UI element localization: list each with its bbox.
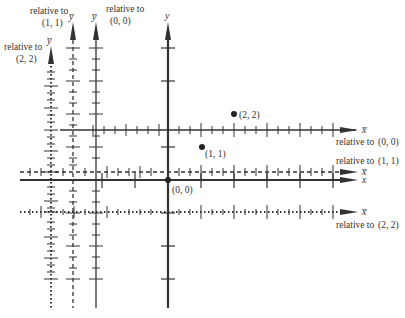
x-axis-label: x bbox=[361, 174, 367, 185]
point-2-2 bbox=[231, 111, 237, 117]
ybar-axis-rel-1-1 bbox=[66, 22, 80, 308]
ybar-caption-1-1-b: (1, 1) bbox=[42, 18, 63, 29]
ybar-caption-0-0-a: relative to bbox=[106, 4, 144, 14]
ybar-caption-2-2-b: (2, 2) bbox=[16, 54, 37, 65]
xbar-caption-0-0-b: (0, 0) bbox=[378, 137, 399, 148]
coordinate-systems-diagram: (0, 0) (1, 1) (2, 2) x̅ x̅ x x̅ relative… bbox=[0, 0, 405, 318]
origin-point bbox=[165, 177, 171, 183]
ybar-axis-rel-0-0 bbox=[89, 22, 103, 308]
xbar-caption-1-1-b: (1, 1) bbox=[378, 156, 399, 167]
y-axis-main bbox=[161, 22, 175, 308]
xbar-caption-2-2-a: relative to bbox=[336, 220, 374, 230]
xbar-axis-rel-2-2 bbox=[20, 205, 358, 219]
ybar-axis-rel-2-2 bbox=[44, 46, 58, 308]
ybar-caption-2-2-a: relative to bbox=[4, 42, 42, 52]
ybar-label-0-0: y̅ bbox=[91, 11, 98, 22]
xbar-axis-rel-1-1 bbox=[20, 165, 358, 179]
xbar-caption-2-2-b: (2, 2) bbox=[378, 220, 399, 231]
xbar-label-0-0: x̅ bbox=[361, 124, 368, 135]
point-1-1-label: (1, 1) bbox=[205, 149, 226, 160]
ybar-label-2-2: y̅ bbox=[46, 35, 53, 46]
xbar-caption-0-0-a: relative to bbox=[336, 137, 374, 147]
ybar-caption-0-0-b: (0, 0) bbox=[110, 16, 131, 27]
origin-label: (0, 0) bbox=[172, 185, 193, 196]
xbar-axis-rel-0-0 bbox=[60, 123, 358, 137]
ybar-caption-1-1-a: relative to bbox=[30, 6, 68, 16]
point-2-2-label: (2, 2) bbox=[239, 110, 260, 121]
y-axis-label: y bbox=[164, 10, 170, 21]
xbar-label-2-2: x̅ bbox=[361, 206, 368, 217]
xbar-caption-1-1-a: relative to bbox=[336, 156, 374, 166]
ybar-label-1-1: y̅ bbox=[68, 11, 75, 22]
